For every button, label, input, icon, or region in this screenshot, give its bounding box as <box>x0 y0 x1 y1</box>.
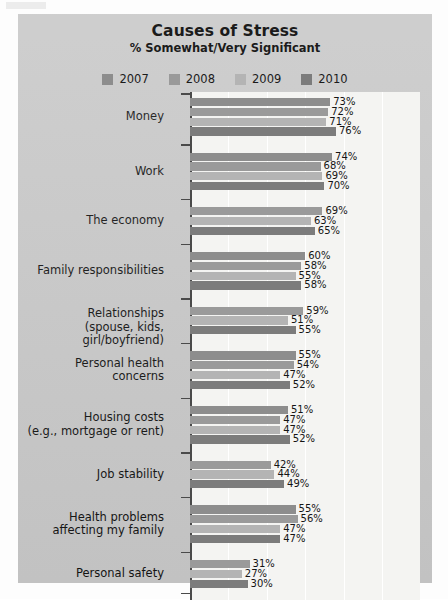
bar-line: 63% <box>190 217 420 225</box>
scan-artifact <box>6 2 46 9</box>
chart-category-row: 55%54%47%52% <box>172 351 420 389</box>
category-label-line: Personal health <box>18 357 164 371</box>
bar-2009[interactable] <box>190 172 322 180</box>
chart-category-row: 51%47%47%52% <box>172 406 420 444</box>
category-label: Work <box>18 165 168 179</box>
axis-tick <box>181 497 191 499</box>
bar-2008[interactable] <box>190 307 303 315</box>
bar-2010[interactable] <box>190 580 248 588</box>
bar-2010[interactable] <box>190 535 280 543</box>
bar-2008[interactable] <box>190 262 301 270</box>
bar-2007[interactable] <box>190 252 305 260</box>
bar-2009[interactable] <box>190 217 311 225</box>
chart-category-row: 55%56%47%47% <box>172 505 420 543</box>
category-label: Job stability <box>18 468 168 482</box>
bar-2009[interactable] <box>190 118 326 126</box>
category-label-line: Family responsibilities <box>18 264 164 278</box>
bar-2008[interactable] <box>190 461 271 469</box>
bar-line: 69% <box>190 207 420 215</box>
bar-2010[interactable] <box>190 182 324 190</box>
bar-line: 52% <box>190 435 420 443</box>
bar-2009[interactable] <box>190 426 280 434</box>
bar-2010[interactable] <box>190 127 336 135</box>
chart-category-row: 59%51%55% <box>172 307 420 335</box>
bar-2010[interactable] <box>190 281 301 289</box>
category-label-line: Work <box>18 165 164 179</box>
bar-2010[interactable] <box>190 326 296 334</box>
bar-2010[interactable] <box>190 480 284 488</box>
chart-legend: 2007200820092010 <box>18 72 432 86</box>
legend-swatch-2007 <box>102 74 113 85</box>
bar-line: 56% <box>190 515 420 523</box>
bar-line: 31% <box>190 560 420 568</box>
bar-value-label: 76% <box>339 126 361 136</box>
chart-category-row: 31%27%30% <box>172 560 420 588</box>
bar-2007[interactable] <box>190 351 296 359</box>
bar-2009[interactable] <box>190 272 296 280</box>
bar-line: 65% <box>190 227 420 235</box>
legend-item-2007[interactable]: 2007 <box>102 72 148 86</box>
bar-value-label: 58% <box>304 280 326 290</box>
bar-2007[interactable] <box>190 406 288 414</box>
bar-2010[interactable] <box>190 435 290 443</box>
bar-2010[interactable] <box>190 381 290 389</box>
category-label-line: Job stability <box>18 468 164 482</box>
axis-tick <box>181 552 191 554</box>
legend-item-2008[interactable]: 2008 <box>169 72 215 86</box>
bar-2007[interactable] <box>190 98 330 106</box>
bar-line: 51% <box>190 406 420 414</box>
bar-value-label: 47% <box>283 534 305 544</box>
category-label-line: affecting my family <box>18 524 164 538</box>
bar-line: 42% <box>190 461 420 469</box>
bar-line: 55% <box>190 326 420 334</box>
bar-line: 70% <box>190 182 420 190</box>
bar-value-label: 65% <box>318 226 340 236</box>
legend-item-2009[interactable]: 2009 <box>235 72 281 86</box>
bar-2008[interactable] <box>190 361 294 369</box>
bar-line: 54% <box>190 361 420 369</box>
bar-group: 69%63%65% <box>190 207 420 235</box>
category-label: Personal safety <box>18 567 168 581</box>
bar-line: 47% <box>190 416 420 424</box>
axis-tick <box>181 244 191 246</box>
category-label-line: Health problems <box>18 511 164 525</box>
bar-2008[interactable] <box>190 207 322 215</box>
legend-item-2010[interactable]: 2010 <box>301 72 347 86</box>
bar-line: 27% <box>190 570 420 578</box>
legend-label-2007: 2007 <box>119 72 148 86</box>
category-label: Personal healthconcerns <box>18 357 168 384</box>
category-label: Housing costs(e.g., mortgage or rent) <box>18 411 168 438</box>
bar-2007[interactable] <box>190 153 332 161</box>
bar-2008[interactable] <box>190 108 328 116</box>
bar-line: 52% <box>190 381 420 389</box>
bar-2009[interactable] <box>190 470 274 478</box>
axis-tick <box>181 199 191 201</box>
bar-2010[interactable] <box>190 227 315 235</box>
bar-2009[interactable] <box>190 525 280 533</box>
bar-value-label: 70% <box>327 181 349 191</box>
bar-line: 76% <box>190 127 420 135</box>
bar-group: 73%72%71%76% <box>190 98 420 136</box>
legend-label-2008: 2008 <box>186 72 215 86</box>
bar-line: 47% <box>190 525 420 533</box>
bar-2009[interactable] <box>190 371 280 379</box>
bar-2008[interactable] <box>190 560 250 568</box>
axis-tick <box>181 398 191 400</box>
bar-2008[interactable] <box>190 515 298 523</box>
chart-figure: Causes of Stress % Somewhat/Very Signifi… <box>18 14 432 583</box>
bar-2009[interactable] <box>190 570 242 578</box>
bar-value-label: 52% <box>293 380 315 390</box>
bar-line: 60% <box>190 252 420 260</box>
bar-value-label: 55% <box>299 325 321 335</box>
bar-2008[interactable] <box>190 416 280 424</box>
bar-line: 74% <box>190 153 420 161</box>
chart-title-block: Causes of Stress % Somewhat/Very Signifi… <box>18 22 432 56</box>
bar-2008[interactable] <box>190 162 321 170</box>
category-label-line: Housing costs <box>18 411 164 425</box>
bar-2007[interactable] <box>190 505 296 513</box>
bar-2009[interactable] <box>190 316 288 324</box>
bar-group: 74%68%69%70% <box>190 153 420 191</box>
bar-line: 72% <box>190 108 420 116</box>
bar-group: 31%27%30% <box>190 560 420 588</box>
chart-title: Causes of Stress <box>18 22 432 40</box>
